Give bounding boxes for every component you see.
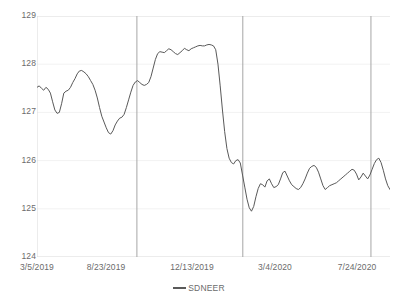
y-axis-tick-label: 128 bbox=[6, 59, 36, 68]
data-series-line bbox=[37, 44, 390, 211]
y-axis-tick-label: 129 bbox=[6, 11, 36, 20]
x-axis-tick-label: 3/5/2019 bbox=[0, 262, 74, 272]
gridlines bbox=[37, 16, 390, 257]
y-axis-tick-label: 125 bbox=[6, 204, 36, 213]
y-axis-tick-label: 126 bbox=[6, 156, 36, 165]
y-axis-tick-label: 127 bbox=[6, 107, 36, 116]
reference-lines bbox=[137, 16, 371, 257]
chart-legend: SDNEER bbox=[0, 283, 398, 293]
y-axis-tick-label: 124 bbox=[6, 252, 36, 261]
x-axis-tick-label: 7/24/2020 bbox=[320, 262, 394, 272]
x-axis-tick-label: 3/4/2020 bbox=[238, 262, 312, 272]
plot-svg bbox=[37, 16, 390, 257]
legend-label: SDNEER bbox=[188, 283, 225, 293]
x-axis-tick-label: 12/13/2019 bbox=[155, 262, 229, 272]
legend-line-swatch bbox=[173, 287, 186, 288]
plot-area bbox=[37, 16, 390, 257]
line-chart: 129 128 127 126 125 124 3/5/2019 8/23/20… bbox=[0, 0, 398, 306]
x-axis-tick-label: 8/23/2019 bbox=[69, 262, 143, 272]
